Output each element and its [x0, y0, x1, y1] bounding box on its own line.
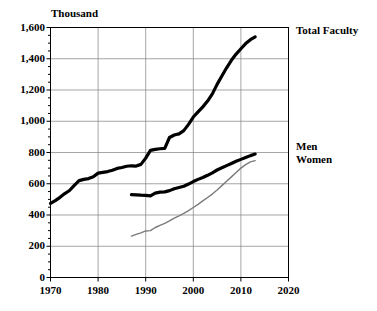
y-axis-tick-label: 1,600 [1, 21, 45, 33]
x-axis-tick-label: 2020 [267, 284, 311, 296]
series-label-total-faculty: Total Faculty [296, 24, 358, 36]
y-axis-tick-label: 0 [1, 271, 45, 283]
series-label-men: Men [296, 140, 317, 152]
x-axis-tick-label: 2000 [171, 284, 215, 296]
series-line-total-faculty [51, 37, 256, 204]
x-axis-tick-label: 1980 [76, 284, 120, 296]
y-axis-tick-label: 1,200 [1, 83, 45, 95]
y-axis-tick-label: 800 [1, 146, 45, 158]
chart-container: Thousand 02004006008001,0001,2001,4001,6… [0, 0, 377, 311]
x-axis-tick-label: 2010 [219, 284, 263, 296]
x-axis-tick-label: 1990 [124, 284, 168, 296]
y-axis-tick-label: 200 [1, 239, 45, 251]
y-axis-tick-label: 600 [1, 177, 45, 189]
y-axis-tick-label: 1,000 [1, 114, 45, 126]
y-axis-tick-label: 1,400 [1, 52, 45, 64]
series-label-women: Women [296, 153, 332, 165]
y-axis-tick-label: 400 [1, 208, 45, 220]
x-axis-tick-label: 1970 [29, 284, 73, 296]
